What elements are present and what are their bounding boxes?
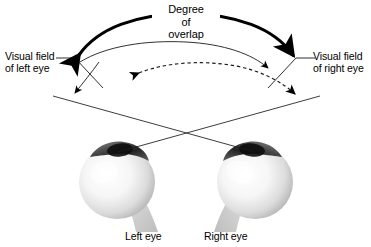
leader-lines xyxy=(56,58,315,88)
right-visual-field-line-2: of right eye xyxy=(313,63,364,75)
right-eye-graphic xyxy=(214,142,293,232)
left-field-arc xyxy=(80,42,268,68)
left-eye-sight-line xyxy=(118,96,320,152)
right-field-dashed-arc xyxy=(139,63,295,94)
left-eye-label: Left eye xyxy=(125,231,162,243)
left-visual-field-line-2: of left eye xyxy=(5,63,54,75)
binocular-vision-diagram: Degree of overlap Visual field of left e… xyxy=(0,0,371,247)
sight-lines xyxy=(53,96,320,152)
title-line-2: of xyxy=(150,16,222,29)
right-eye-sight-line xyxy=(53,96,255,152)
right-visual-field-label: Visual field of right eye xyxy=(313,51,364,74)
title-line-1: Degree xyxy=(150,3,222,16)
right-eye-label: Right eye xyxy=(204,231,247,243)
left-visual-field-label: Visual field of left eye xyxy=(5,51,54,74)
title-line-3: overlap xyxy=(150,28,222,41)
figure-title: Degree of overlap xyxy=(150,3,222,41)
left-field-lower-arc xyxy=(75,62,99,93)
left-visual-field-line-1: Visual field xyxy=(5,51,54,63)
left-eye-graphic xyxy=(79,142,158,232)
right-visual-field-line-1: Visual field xyxy=(313,51,364,63)
right-vertex-branch xyxy=(268,58,296,88)
